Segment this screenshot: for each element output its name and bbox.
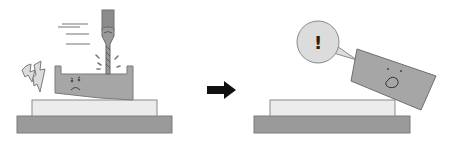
speech-bubble: ! xyxy=(297,21,357,63)
illustration: ! xyxy=(0,0,453,145)
panel-after: ! xyxy=(254,21,436,133)
exclamation-mark: ! xyxy=(314,32,322,53)
fixture-base xyxy=(17,116,172,133)
right-arrow-icon xyxy=(207,81,236,99)
fixture-base-after xyxy=(254,116,410,133)
panel-before xyxy=(17,10,172,133)
workpiece xyxy=(55,66,133,100)
fixture-plate-after xyxy=(270,100,395,116)
speed-lines xyxy=(58,24,90,44)
vibration-lightning-icon xyxy=(22,61,45,92)
drill-bit xyxy=(102,27,114,74)
fixture-plate xyxy=(32,100,157,116)
